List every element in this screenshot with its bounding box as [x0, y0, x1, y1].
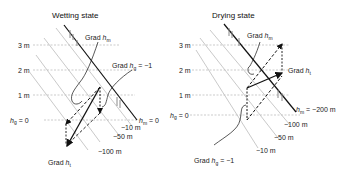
grad-ht-label: Grad ht — [48, 159, 71, 168]
drying-title: Drying state — [212, 11, 255, 20]
wetting-title: Wetting state — [52, 11, 99, 20]
contour-label: −10 m — [256, 147, 276, 154]
surface-label: hm = 0 — [139, 117, 159, 126]
grad-hg-label: Grad hg = −1 — [194, 157, 234, 166]
grad-hg-label: Grad hg = −1 — [112, 62, 152, 71]
wetting-panel: Wetting state 3 m 2 m 1 m hg = 0 — [10, 11, 159, 168]
moisture-gradient-diagram: Wetting state 3 m 2 m 1 m hg = 0 — [0, 0, 353, 177]
elev-3m: 3 m — [179, 42, 191, 49]
surface-label: hm = −200 m — [296, 106, 336, 115]
parallelogram-edge — [247, 76, 282, 120]
elev-3m: 3 m — [18, 42, 30, 49]
contour-label: −10 m — [121, 124, 141, 131]
drying-panel: Drying state 3 m 2 m 1 m hg = 0 Gr — [170, 11, 336, 166]
grad-hm-leader — [248, 42, 260, 74]
contour-label: −100 m — [98, 148, 122, 155]
grad-ht-label: Grad ht — [288, 67, 311, 76]
elev-1m: 1 m — [18, 92, 30, 99]
elev-1m: 1 m — [179, 92, 191, 99]
datum-label: hg = 0 — [170, 112, 189, 121]
contour-label: −100 m — [284, 121, 308, 128]
datum-label: hg = 0 — [10, 117, 29, 126]
elev-2m: 2 m — [179, 67, 191, 74]
grad-hm-label: Grad hm — [85, 34, 111, 43]
contour-label: −50 m — [274, 134, 294, 141]
grad-hg-leader — [214, 105, 246, 145]
grad-hm-arrow — [247, 44, 282, 88]
parallelogram-edge — [68, 113, 100, 144]
elevation-lines — [190, 45, 300, 115]
elevation-lines — [33, 45, 140, 120]
grad-hm-label: Grad hm — [247, 32, 273, 41]
contour-label: −50 m — [113, 133, 133, 140]
